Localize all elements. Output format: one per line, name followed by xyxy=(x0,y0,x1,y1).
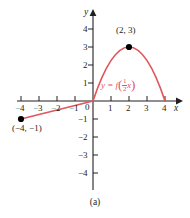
equation-label: y = f(12x) xyxy=(101,77,135,94)
y-axis-label: y xyxy=(84,8,88,18)
x-axis-label: x xyxy=(174,104,178,114)
origin-label: 0 xyxy=(85,103,90,112)
x-tick-label-1: 1 xyxy=(108,104,113,113)
point-label-vertex: (2, 3) xyxy=(116,26,136,35)
y-tick-label--4: −4 xyxy=(78,169,88,178)
y-tick-label-1: 1 xyxy=(83,79,88,88)
equation-fraction: 12 xyxy=(122,78,127,94)
y-tick-label--3: −3 xyxy=(78,151,88,160)
x-tick-label-4: 4 xyxy=(162,104,167,113)
x-tick-label--4: −4 xyxy=(15,104,25,113)
x-tick-label--3: −3 xyxy=(33,104,43,113)
figure-caption: (a) xyxy=(0,198,190,208)
point-marker-vertex xyxy=(126,44,132,50)
y-axis-arrowhead xyxy=(90,9,97,16)
equation-paren-close: ) xyxy=(131,77,135,92)
point-label-left-endpoint: (−4, −1) xyxy=(12,124,42,133)
x-tick-label--1: −1 xyxy=(69,104,79,113)
x-tick-label-2: 2 xyxy=(126,104,131,113)
x-tick-label-3: 3 xyxy=(144,104,149,113)
y-tick-label--2: −2 xyxy=(78,133,88,142)
graph-figure: y x 0 −4 −3 −2 −1 1 2 3 4 1 2 3 4 −1 −2 … xyxy=(0,0,190,218)
y-tick-label-3: 3 xyxy=(83,43,88,52)
fraction-denominator: 2 xyxy=(122,86,127,93)
point-marker-left-endpoint xyxy=(18,116,24,122)
equation-lhs: y = f xyxy=(101,80,118,90)
y-tick-label--1: −1 xyxy=(78,115,88,124)
y-tick-label-4: 4 xyxy=(83,25,88,34)
y-tick-label-2: 2 xyxy=(83,61,88,70)
x-tick-label--2: −2 xyxy=(51,104,61,113)
